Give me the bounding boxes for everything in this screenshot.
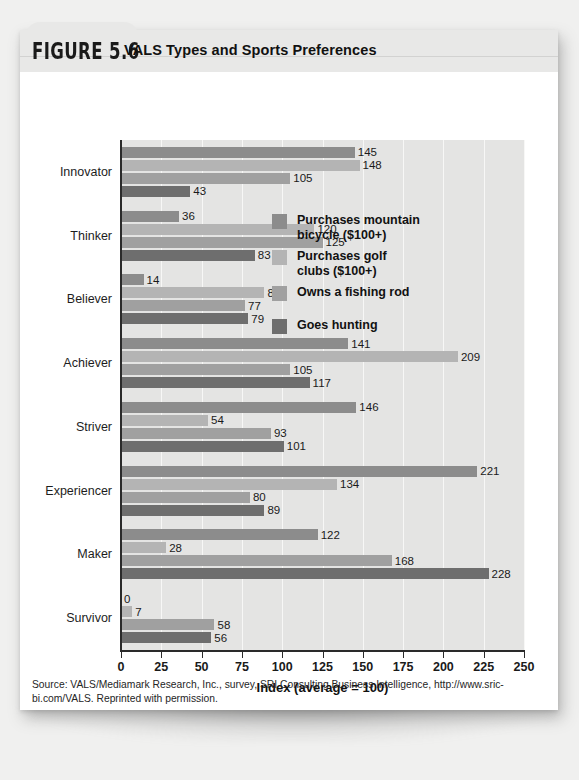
x-axis-tick <box>524 652 525 658</box>
legend-swatch-icon <box>272 214 287 229</box>
bar-value-label: 54 <box>211 414 224 426</box>
figure-title: VALS Types and Sports Preferences <box>124 42 377 58</box>
category-label-experiencer: Experiencer <box>45 484 112 498</box>
legend-label: Purchases mountain <box>297 213 462 228</box>
bar-value-label: 101 <box>287 440 306 452</box>
bar-value-label: 79 <box>251 313 264 325</box>
bar <box>121 632 211 643</box>
x-axis-tick <box>242 652 243 658</box>
legend-label-line2: bicycle ($100+) <box>297 228 462 243</box>
bar <box>121 619 214 630</box>
bar-value-label: 89 <box>267 504 280 516</box>
y-axis-line <box>120 140 122 652</box>
x-axis-tick <box>282 652 283 658</box>
legend-label: Owns a fishing rod <box>297 285 462 300</box>
bar-value-label: 56 <box>214 632 227 644</box>
x-axis-tick-label: 0 <box>118 660 125 674</box>
bar <box>121 529 318 540</box>
legend-swatch-icon <box>272 286 287 301</box>
bar <box>121 173 290 184</box>
x-axis-tick <box>363 652 364 658</box>
bar <box>121 402 356 413</box>
chart-area: 1451481054336120125831489777914120910511… <box>20 72 558 672</box>
chart-legend: Purchases mountainbicycle ($100+)Purchas… <box>272 213 462 351</box>
x-axis-tick-label: 75 <box>235 660 249 674</box>
x-axis-tick-label: 225 <box>473 660 494 674</box>
screenshot-stage: FIGURE 5.6 VALS Types and Sports Prefere… <box>0 0 579 780</box>
category-label-believer: Believer <box>67 292 112 306</box>
bar <box>121 313 248 324</box>
bar-value-label: 14 <box>147 274 160 286</box>
legend-label: Purchases golf <box>297 249 462 264</box>
bar-value-label: 43 <box>193 185 206 197</box>
bar-value-label: 36 <box>182 210 195 222</box>
x-axis-tick <box>403 652 404 658</box>
x-axis-tick-label: 125 <box>312 660 333 674</box>
bar <box>121 492 250 503</box>
x-axis-tick-label: 100 <box>272 660 293 674</box>
figure-page-card: FIGURE 5.6 VALS Types and Sports Prefere… <box>20 30 558 710</box>
category-label-survivor: Survivor <box>66 611 112 625</box>
x-axis-tick-label: 250 <box>514 660 535 674</box>
source-note: Source: VALS/Mediamark Research, Inc., s… <box>32 678 548 706</box>
bar <box>121 505 264 516</box>
bar-value-label: 228 <box>492 568 511 580</box>
bar <box>121 160 360 171</box>
x-axis-tick <box>161 652 162 658</box>
bar-value-label: 58 <box>217 619 230 631</box>
category-label-maker: Maker <box>77 547 112 561</box>
bar <box>121 428 271 439</box>
bar <box>121 147 355 158</box>
bar <box>121 274 144 285</box>
category-label-achiever: Achiever <box>63 356 112 370</box>
legend-swatch-icon <box>272 319 287 334</box>
bar-value-label: 105 <box>293 364 312 376</box>
bar <box>121 377 310 388</box>
bar-value-label: 145 <box>358 146 377 158</box>
bar <box>121 542 166 553</box>
bar-value-label: 28 <box>169 542 182 554</box>
legend-label: Goes hunting <box>297 318 462 333</box>
bar <box>121 441 284 452</box>
bar <box>121 415 208 426</box>
x-axis-tick <box>121 652 122 658</box>
bar <box>121 555 392 566</box>
x-axis-tick-label: 175 <box>393 660 414 674</box>
bar-value-label: 146 <box>359 401 378 413</box>
x-axis-tick <box>323 652 324 658</box>
bar <box>121 568 489 579</box>
bar-value-label: 209 <box>461 351 480 363</box>
bar-value-label: 148 <box>363 159 382 171</box>
category-label-striver: Striver <box>76 420 112 434</box>
legend-swatch-icon <box>272 250 287 265</box>
category-label-innovator: Innovator <box>60 165 112 179</box>
bar-value-label: 221 <box>480 465 499 477</box>
bar <box>121 211 179 222</box>
bar-value-label: 83 <box>258 249 271 261</box>
bar <box>121 479 337 490</box>
bar <box>121 364 290 375</box>
bar <box>121 351 458 362</box>
bar-value-label: 0 <box>124 593 130 605</box>
bar-value-label: 105 <box>293 172 312 184</box>
x-axis-tick <box>443 652 444 658</box>
bar-value-label: 80 <box>253 491 266 503</box>
x-axis-tick <box>202 652 203 658</box>
bar <box>121 606 132 617</box>
x-axis-tick <box>484 652 485 658</box>
bar-value-label: 168 <box>395 555 414 567</box>
bar <box>121 186 190 197</box>
bar-value-label: 93 <box>274 427 287 439</box>
category-label-thinker: Thinker <box>70 229 112 243</box>
x-axis-tick-label: 25 <box>154 660 168 674</box>
legend-item: Goes hunting <box>272 318 462 344</box>
bar <box>121 250 255 261</box>
x-axis-tick-label: 150 <box>352 660 373 674</box>
legend-label-line2: clubs ($100+) <box>297 264 462 279</box>
legend-item: Purchases golfclubs ($100+) <box>272 249 462 278</box>
gridline <box>524 140 525 650</box>
legend-item: Owns a fishing rod <box>272 285 462 311</box>
bar-value-label: 134 <box>340 478 359 490</box>
legend-item: Purchases mountainbicycle ($100+) <box>272 213 462 242</box>
bar-value-label: 7 <box>135 606 141 618</box>
